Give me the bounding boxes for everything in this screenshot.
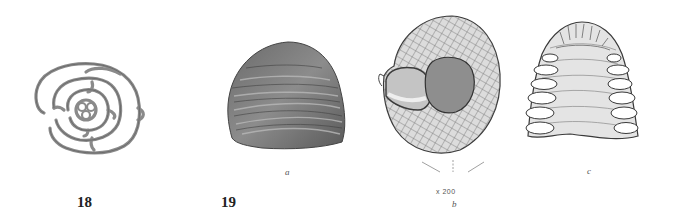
view-label-a: a	[285, 167, 290, 177]
figure-19a-exterior-view	[222, 38, 347, 150]
figure-number-18: 18	[77, 194, 92, 211]
magnification-label: x 200	[436, 188, 456, 195]
figure-number-19: 19	[221, 194, 236, 211]
figure-19b-basal-view	[374, 10, 504, 158]
basal-view-drawing	[374, 10, 504, 158]
vertical-section-drawing	[520, 18, 642, 146]
figure-18-spiral-section	[30, 58, 145, 158]
spiral-section-drawing	[30, 58, 145, 158]
magnification-guide-lines	[420, 160, 492, 190]
figure-19c-vertical-section	[520, 18, 642, 146]
view-label-c: c	[587, 166, 591, 176]
dome-exterior-drawing	[222, 38, 347, 150]
view-label-b: b	[452, 199, 457, 209]
